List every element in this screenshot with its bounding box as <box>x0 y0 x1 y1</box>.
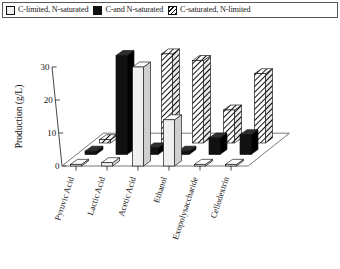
bar-exopolysaccharide-black <box>209 133 227 155</box>
chart-legend: C-limited, N-saturated C-and N-saturated… <box>2 2 338 18</box>
bar-chart-3d: 0102030Production (g/L)Pyruvic AcidLacti… <box>0 18 340 269</box>
legend-label-0: C-limited, N-saturated <box>18 6 88 14</box>
x-category-label-acetic-acid: Acetic Acid <box>116 175 138 218</box>
y-tick-label-10: 10 <box>47 128 57 138</box>
x-category-label-lactic-acid: Lactic Acid <box>85 175 107 217</box>
y-tick-label-20: 20 <box>44 95 54 105</box>
x-category-label-cellodextrin: Cellodextrin <box>208 175 231 220</box>
bar-lactic-acid-black <box>116 51 134 155</box>
bar-pyruvic-acid-white <box>71 159 89 166</box>
x-category-label-exopolysaccharide: Exopolysaccharide <box>170 175 200 240</box>
bar-lactic-acid-white <box>102 158 120 166</box>
y-tick-label-0: 0 <box>55 161 60 171</box>
bar-cellodextrin-black <box>240 130 258 155</box>
x-category-label-pyruvic-acid: Pyruvic Acid <box>52 175 76 222</box>
legend-label-2: C-saturated, N-limited <box>180 6 250 14</box>
legend-entry-c-limited-n-saturated: C-limited, N-saturated <box>6 6 88 15</box>
x-category-label-ethanol: Ethanol <box>151 175 169 204</box>
legend-swatch-hatch-icon <box>168 6 177 15</box>
bar-ethanol-white <box>164 115 182 166</box>
legend-entry-c-saturated-n-limited: C-saturated, N-limited <box>168 6 250 15</box>
y-axis-title: Production (g/L) <box>14 85 25 149</box>
bars-layer <box>71 49 273 166</box>
legend-label-1: C-and N-saturated <box>105 6 163 14</box>
legend-entry-c-and-n-saturated: C-and N-saturated <box>93 6 163 15</box>
legend-swatch-black-icon <box>93 6 102 15</box>
bar-exopolysaccharide-white <box>195 159 213 166</box>
y-tick-label-30: 30 <box>41 62 51 72</box>
bar-cellodextrin-white <box>226 159 244 166</box>
bar-acetic-acid-white <box>133 62 151 166</box>
bar-pyruvic-acid-hatch <box>100 135 118 143</box>
bar-pyruvic-acid-black <box>85 146 103 154</box>
chart-plot-area: 0102030Production (g/L)Pyruvic AcidLacti… <box>0 18 340 269</box>
bar-ethanol-hatch <box>193 56 211 144</box>
legend-swatch-white-icon <box>6 6 15 15</box>
